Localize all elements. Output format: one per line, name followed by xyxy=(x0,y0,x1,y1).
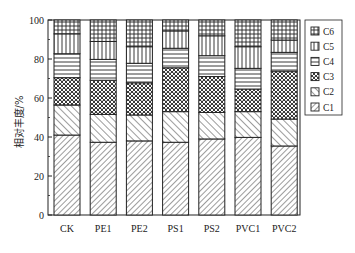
legend-swatch xyxy=(311,42,319,50)
segment-c3 xyxy=(90,80,116,114)
segment-c6 xyxy=(271,20,297,40)
legend-label: C4 xyxy=(323,57,334,67)
segment-c2 xyxy=(54,105,80,135)
segment-c3 xyxy=(235,89,261,112)
segment-c1 xyxy=(235,137,261,215)
legend-label: C1 xyxy=(323,103,334,113)
y-tick-label: 60 xyxy=(34,93,44,104)
y-tick-label: 100 xyxy=(29,15,44,26)
bar-pe2 xyxy=(126,20,152,215)
segment-c6 xyxy=(199,20,225,36)
segment-c5 xyxy=(235,47,261,69)
segment-c5 xyxy=(54,34,80,54)
segment-c6 xyxy=(54,20,80,34)
segment-c1 xyxy=(54,135,80,215)
segment-c5 xyxy=(163,31,189,48)
segment-c3 xyxy=(271,71,297,119)
legend-swatch xyxy=(311,88,319,96)
segment-c2 xyxy=(90,114,116,142)
legend-item-c5: C5 xyxy=(311,42,334,52)
legend-swatch xyxy=(311,103,319,111)
legend-label: C2 xyxy=(323,87,334,97)
segment-c2 xyxy=(271,119,297,146)
segment-c5 xyxy=(90,41,116,59)
segment-c4 xyxy=(163,48,189,68)
y-tick-label: 40 xyxy=(34,132,44,143)
y-tick-label: 80 xyxy=(34,54,44,65)
legend-label: C5 xyxy=(323,42,334,52)
segment-c6 xyxy=(235,20,261,47)
x-tick-label: PE2 xyxy=(131,223,148,234)
y-axis: 020406080100 xyxy=(29,15,52,221)
legend-item-c2: C2 xyxy=(311,87,334,97)
legend-swatch xyxy=(311,27,319,35)
segment-c6 xyxy=(126,20,152,47)
y-tick-label: 0 xyxy=(39,210,44,221)
legend-label: C3 xyxy=(323,72,334,82)
segment-c3 xyxy=(199,77,225,113)
segment-c2 xyxy=(199,112,225,139)
segment-c5 xyxy=(199,36,225,56)
segment-c2 xyxy=(126,115,152,141)
segment-c1 xyxy=(271,146,297,215)
x-tick-label: PVC1 xyxy=(236,223,260,234)
segment-c2 xyxy=(163,112,189,143)
bars-group xyxy=(54,20,297,215)
legend-item-c3: C3 xyxy=(311,72,334,82)
bar-pvc1 xyxy=(235,20,261,215)
legend-swatch xyxy=(311,57,319,65)
segment-c3 xyxy=(54,78,80,105)
bar-pe1 xyxy=(90,20,116,215)
x-tick-label: PE1 xyxy=(95,223,112,234)
bar-pvc2 xyxy=(271,20,297,215)
y-axis-label: 相对丰度/% xyxy=(13,96,25,149)
legend-item-c6: C6 xyxy=(311,27,334,37)
segment-c1 xyxy=(163,142,189,215)
segment-c3 xyxy=(126,83,152,115)
x-tick-label: PVC2 xyxy=(272,223,296,234)
segment-c5 xyxy=(126,47,152,64)
segment-c3 xyxy=(163,68,189,112)
legend-swatch xyxy=(311,73,319,81)
segment-c4 xyxy=(126,63,152,83)
x-tick-label: PS2 xyxy=(204,223,220,234)
segment-c2 xyxy=(235,112,261,138)
segment-c1 xyxy=(199,139,225,215)
segment-c6 xyxy=(90,20,116,41)
x-tick-label: CK xyxy=(60,223,75,234)
segment-c6 xyxy=(163,20,189,31)
stacked-bar-chart: 020406080100 CKPE1PE2PS1PS2PVC1PVC2 C6C5… xyxy=(0,0,355,253)
legend-label: C6 xyxy=(323,27,334,37)
segment-c5 xyxy=(271,40,297,52)
segment-c1 xyxy=(126,141,152,215)
segment-c4 xyxy=(54,54,80,78)
legend-item-c4: C4 xyxy=(311,57,334,67)
x-axis: CKPE1PE2PS1PS2PVC1PVC2 xyxy=(60,223,296,234)
legend-item-c1: C1 xyxy=(311,103,334,113)
bar-ck xyxy=(54,20,80,215)
segment-c4 xyxy=(90,59,116,80)
x-tick-label: PS1 xyxy=(168,223,184,234)
bar-ps2 xyxy=(199,20,225,215)
segment-c4 xyxy=(271,52,297,71)
legend: C6C5C4C3C2C1 xyxy=(305,20,342,115)
y-tick-label: 20 xyxy=(34,171,44,182)
segment-c4 xyxy=(199,56,225,77)
bar-ps1 xyxy=(163,20,189,215)
segment-c4 xyxy=(235,68,261,89)
segment-c1 xyxy=(90,142,116,215)
